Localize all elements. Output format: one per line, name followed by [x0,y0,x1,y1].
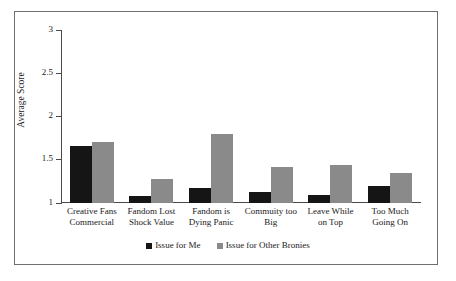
bar-issue-for-other-bronies [92,142,114,202]
plot-area [62,30,420,203]
bar-group [360,30,420,203]
x-axis-category-label-line: Going On [357,217,423,228]
legend-item[interactable]: Issue for Other Bronies [217,240,310,251]
bar-group [181,30,241,203]
x-axis-category-label-line: on Top [298,217,364,228]
legend-item-label: Issue for Other Bronies [226,240,310,251]
bar-issue-for-other-bronies [151,179,173,202]
y-axis-tick-label-text: 3 [11,25,53,34]
bar-issue-for-me [70,146,92,202]
bar-group [241,30,301,203]
y-axis-title-text: Average Score [16,55,26,145]
bar-issue-for-other-bronies [211,134,233,202]
y-axis-tick-label: 1.5 [0,154,53,163]
chart-legend: Issue for MeIssue for Other Bronies [0,240,456,251]
x-axis-category-label-line: Commuity too [238,206,304,217]
y-axis-tick-label: 2 [0,111,53,120]
x-axis-category-label-line: Leave While [298,206,364,217]
y-axis-tick-label: 1 [0,198,53,207]
x-axis-category-label: Fandom LostShock Value [119,206,185,228]
x-axis-category-label: Commuity tooBig [238,206,304,228]
x-axis-category-label-line: Shock Value [119,217,185,228]
x-axis-category-label-line: Big [238,217,304,228]
black-square-icon [146,243,152,249]
figure-container: 11.522.53 Average Score Creative FansCom… [0,0,456,281]
gray-square-icon [217,243,223,249]
bar-group [62,30,122,203]
bar-issue-for-me [308,195,330,203]
x-axis-category-label-line: Creative Fans [59,206,125,217]
bar-issue-for-me [189,188,211,203]
bar-issue-for-me [368,186,390,202]
x-axis-category-label: Creative FansCommercial [59,206,125,228]
y-axis-tick-label-text: 1 [11,198,53,207]
bar-issue-for-me [249,192,271,202]
x-axis-category-label-line: Too Much [357,206,423,217]
bar-group [122,30,182,203]
x-axis-category-label-line: Fandom is [178,206,244,217]
y-axis-tick-label-text: 1.5 [11,154,53,163]
bar-issue-for-other-bronies [330,165,352,203]
y-axis-tick-label: 2.5 [0,68,53,77]
x-axis-category-label: Too MuchGoing On [357,206,423,228]
x-axis-category-label-line: Dying Panic [178,217,244,228]
bar-group [301,30,361,203]
bar-issue-for-other-bronies [390,173,412,202]
bar-issue-for-other-bronies [271,167,293,202]
x-axis-category-label-line: Fandom Lost [119,206,185,217]
bar-issue-for-me [129,196,151,202]
y-axis-tick-mark [56,203,62,204]
legend-item-label: Issue for Me [155,240,201,251]
x-axis-category-label: Leave Whileon Top [298,206,364,228]
legend-item[interactable]: Issue for Me [146,240,201,251]
x-axis-category-label-line: Commercial [59,217,125,228]
x-axis-category-label: Fandom isDying Panic [178,206,244,228]
y-axis-tick-label: 3 [0,25,53,34]
